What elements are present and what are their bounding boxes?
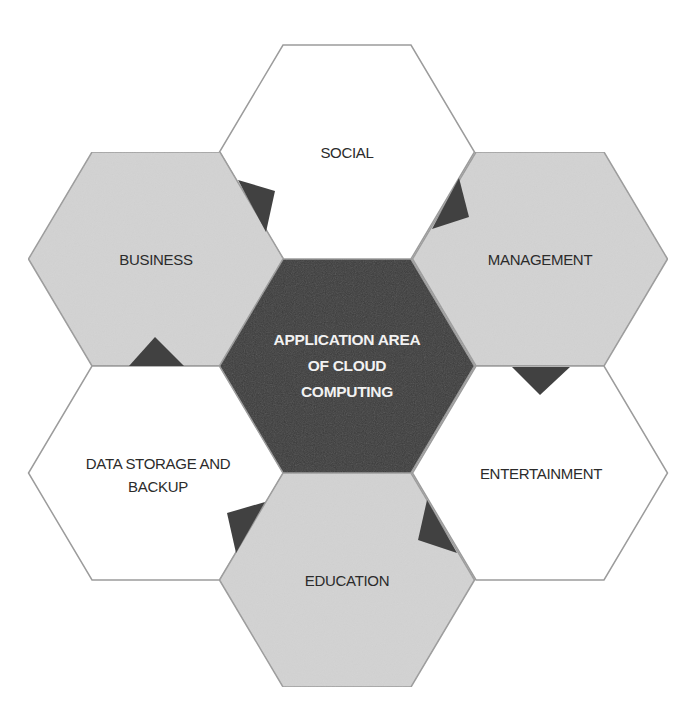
social-label: SOCIAL [320,141,373,164]
center-title-label: APPLICATION AREA OF CLOUD COMPUTING [274,327,421,405]
management-label: MANAGEMENT [488,248,593,271]
entertainment-label: ENTERTAINMENT [480,462,602,485]
education-label: EDUCATION [305,569,390,592]
cloud-computing-hex-diagram: SOCIAL BUSINESS MANAGEMENT APPLICATION A… [0,0,695,719]
business-label: BUSINESS [119,248,192,271]
data-storage-label: DATA STORAGE AND BACKUP [86,452,230,498]
